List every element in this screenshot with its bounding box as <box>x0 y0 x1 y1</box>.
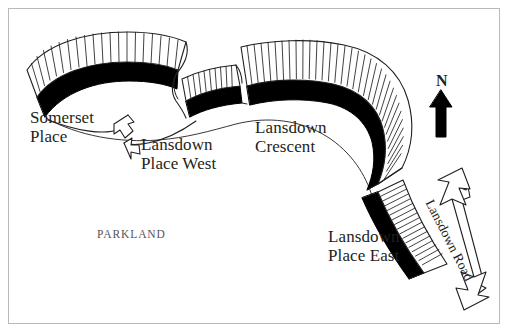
label-lansdown-place-east-line1: Lansdown <box>328 227 400 246</box>
feature-lansdown-crescent <box>241 40 412 190</box>
label-lansdown-place-west-line1: Lansdown <box>141 135 216 154</box>
label-lansdown-place-west: Lansdown Place West <box>141 135 216 173</box>
north-arrow <box>430 90 452 137</box>
feature-somerset-place <box>27 32 186 117</box>
label-north-compass: N <box>436 72 448 90</box>
map-drawing <box>0 0 510 334</box>
label-lansdown-crescent-line2: Crescent <box>255 137 327 156</box>
label-lansdown-crescent-line1: Lansdown <box>255 118 327 137</box>
label-somerset-place-line1: Somerset <box>30 108 94 127</box>
label-lansdown-place-east: Lansdown Place East <box>328 227 400 265</box>
label-lansdown-place-east-line2: Place East <box>328 246 400 265</box>
crescent-west-gap-edge <box>242 103 247 104</box>
lansdown-crescent-plots-outline <box>241 41 412 184</box>
label-somerset-place-line2: Place <box>30 127 94 146</box>
label-parkland: PARKLAND <box>97 228 166 241</box>
arrowhead-somerset-place <box>114 115 134 138</box>
feature-lansdown-place-west <box>182 65 242 117</box>
map-figure: Somerset Place Lansdown Place West Lansd… <box>0 0 510 334</box>
label-lansdown-crescent: Lansdown Crescent <box>255 118 327 156</box>
label-lansdown-place-west-line2: Place West <box>141 154 216 173</box>
arrowhead-lansdown-place-west <box>124 138 140 159</box>
lansdown-road-arrow-head-north <box>438 168 470 205</box>
label-somerset-place: Somerset Place <box>30 108 94 146</box>
